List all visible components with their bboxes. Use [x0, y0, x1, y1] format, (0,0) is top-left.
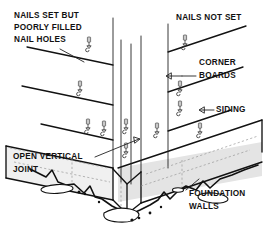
nails-set-line2: POORLY FILLED: [14, 23, 82, 32]
nail-symbols-center: [123, 119, 128, 158]
label-nails-set: NAILS SET BUT POORLY FILLED NAIL HOLES: [14, 11, 82, 44]
technical-illustration: NAILS SET BUT POORLY FILLED NAIL HOLES N…: [0, 0, 267, 242]
open-joint-arrow-icon: [95, 137, 140, 157]
open-joint-line2: JOINT: [13, 165, 38, 174]
nail-symbol: [85, 119, 90, 134]
nails-set-line1: NAILS SET BUT: [14, 11, 79, 20]
nail-symbol: [77, 81, 82, 96]
siding-arrow-icon: [199, 107, 214, 113]
nail-symbol: [177, 101, 182, 116]
corner-boards-line2: BOARDS: [199, 71, 236, 80]
siding-line1: SIDING: [216, 105, 246, 114]
nail-symbol: [154, 123, 159, 138]
nails-set-line3: NAIL HOLES: [14, 35, 66, 44]
nails-not-set-line1: NAILS NOT SET: [176, 13, 242, 22]
nail-symbols-left: [77, 37, 106, 136]
label-siding: SIDING: [216, 105, 246, 114]
nails-set-leader: [60, 49, 84, 62]
nail-symbol: [197, 123, 202, 138]
nail-symbol: [101, 121, 106, 136]
nail-symbol: [86, 37, 91, 52]
label-corner-boards: CORNER BOARDS: [199, 58, 236, 80]
foundation-line2: WALLS: [189, 202, 219, 211]
label-nails-not-set: NAILS NOT SET: [176, 13, 242, 22]
corner-boards: [113, 18, 168, 184]
open-joint-line1: OPEN VERTICAL: [13, 152, 83, 161]
corner-boards-line1: CORNER: [199, 58, 236, 67]
siding-left-face: [6, 47, 113, 168]
illustration-canvas: NAILS SET BUT POORLY FILLED NAIL HOLES N…: [0, 0, 267, 242]
foundation-line1: FOUNDATION: [189, 189, 245, 198]
nail-symbol: [123, 119, 128, 134]
